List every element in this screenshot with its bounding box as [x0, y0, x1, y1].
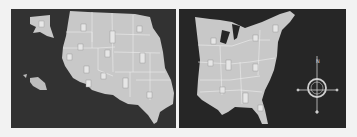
compass-north-label: N — [316, 58, 320, 64]
scene-description: Photograph of a two-part United States m… — [0, 0, 34, 1]
hawaii-piece — [30, 77, 47, 90]
west-us-piece — [62, 11, 174, 124]
compass-rose-icon — [297, 56, 338, 113]
map-photo: N — [0, 0, 357, 137]
east-us-piece — [195, 11, 295, 124]
hawaii-piece — [23, 74, 27, 78]
